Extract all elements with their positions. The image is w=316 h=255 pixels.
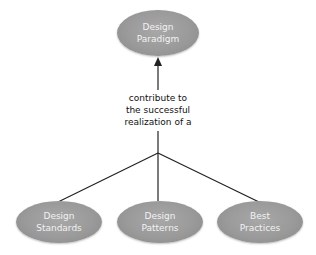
relationship-label: contribute to the successful realization… (108, 92, 208, 128)
node-design-standards: Design Standards (16, 201, 102, 243)
arrow-head-icon (154, 57, 162, 66)
diagram-canvas: Design Paradigm contribute to the succes… (0, 0, 316, 255)
node-best-practices: Best Practices (217, 201, 303, 243)
branch-line-left (58, 153, 158, 202)
node-design-patterns: Design Patterns (117, 201, 203, 243)
node-design-paradigm: Design Paradigm (117, 10, 199, 56)
node-label: Design Paradigm (137, 21, 179, 45)
node-label: Design Standards (36, 210, 82, 234)
node-label: Design Patterns (141, 210, 178, 234)
node-label: Best Practices (240, 210, 281, 234)
branch-line-right (158, 153, 259, 202)
